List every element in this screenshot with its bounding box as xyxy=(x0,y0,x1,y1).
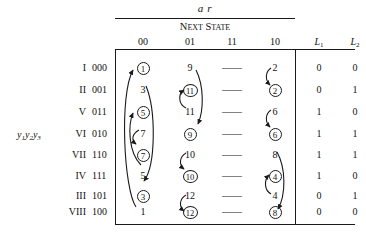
cell-next-state-01: 10 xyxy=(175,170,205,183)
output-vertical-rule xyxy=(295,50,296,224)
column-header-01: 01 xyxy=(173,36,207,47)
cell-next-state-00: 7 xyxy=(128,128,158,139)
cell-next-state-01: 12 xyxy=(175,206,205,219)
cell-next-state-11: —— xyxy=(217,84,247,95)
cell-next-state-00: 5 xyxy=(128,106,158,119)
row-label-bits: 010 xyxy=(92,128,107,139)
input-variables-label: a r xyxy=(115,2,295,14)
cell-next-state-11: —— xyxy=(217,106,247,117)
state-variable-label: y1y2y3 xyxy=(17,129,41,142)
cell-output-l2: 1 xyxy=(340,84,366,95)
row-label-roman: I xyxy=(56,62,86,73)
cell-output-l1: 0 xyxy=(304,206,334,217)
cell-output-l1: 0 xyxy=(304,84,334,95)
row-label-bits: 101 xyxy=(92,190,107,201)
cell-next-state-11: —— xyxy=(217,206,247,217)
cell-next-state-01: 9 xyxy=(175,62,205,73)
cell-next-state-00: 1 xyxy=(128,62,158,75)
column-header-00: 00 xyxy=(126,36,160,47)
column-header-l1: L1 xyxy=(302,36,336,49)
cell-output-l1: 1 xyxy=(304,170,334,181)
cell-next-state-10: 4 xyxy=(260,170,290,183)
cell-next-state-11: —— xyxy=(217,62,247,73)
cell-output-l1: 0 xyxy=(304,62,334,73)
cell-next-state-00: 7 xyxy=(128,149,158,162)
cell-output-l2: 0 xyxy=(340,170,366,181)
header-rule xyxy=(115,49,355,50)
row-label-roman: II xyxy=(56,84,86,95)
cell-next-state-10: 2 xyxy=(260,84,290,97)
cell-next-state-10: 6 xyxy=(260,128,290,141)
row-label-bits: 011 xyxy=(92,106,107,117)
cell-next-state-00: 3 xyxy=(128,190,158,203)
row-label-bits: 000 xyxy=(92,62,107,73)
cell-output-l1: 0 xyxy=(304,190,334,201)
row-label-roman: III xyxy=(56,190,86,201)
cell-output-l2: 1 xyxy=(340,128,366,139)
row-label-roman: VI xyxy=(56,128,86,139)
row-label-roman: IV xyxy=(56,170,86,181)
cell-output-l1: 1 xyxy=(304,149,334,160)
cell-output-l2: 1 xyxy=(340,149,366,160)
cell-next-state-10: 4 xyxy=(260,190,290,201)
left-vertical-rule xyxy=(115,50,116,224)
row-label-bits: 111 xyxy=(92,170,106,181)
cell-next-state-01: 11 xyxy=(175,106,205,117)
cell-next-state-10: 8 xyxy=(260,206,290,219)
cell-next-state-11: —— xyxy=(217,170,247,181)
cell-next-state-00: 5 xyxy=(128,170,158,181)
cell-output-l2: 0 xyxy=(340,206,366,217)
row-label-bits: 110 xyxy=(92,149,107,160)
cell-next-state-11: —— xyxy=(217,149,247,160)
next-state-label: NEXT STATE xyxy=(115,21,295,32)
cell-next-state-10: 6 xyxy=(260,106,290,117)
cell-output-l1: 1 xyxy=(304,128,334,139)
column-header-l2: L2 xyxy=(338,36,366,49)
input-header-rule xyxy=(115,18,295,19)
cell-next-state-10: 2 xyxy=(260,62,290,73)
cell-next-state-01: 12 xyxy=(175,190,205,201)
cell-output-l1: 1 xyxy=(304,106,334,117)
cell-next-state-00: 1 xyxy=(128,206,158,217)
cell-output-l2: 0 xyxy=(340,106,366,117)
column-header-10: 10 xyxy=(258,36,292,47)
cell-output-l2: 1 xyxy=(340,190,366,201)
row-label-bits: 001 xyxy=(92,84,107,95)
row-label-roman: VIII xyxy=(56,206,86,217)
cell-next-state-10: 8 xyxy=(260,149,290,160)
cell-next-state-01: 11 xyxy=(175,84,205,97)
cell-next-state-11: —— xyxy=(217,190,247,201)
bottom-rule xyxy=(115,224,355,225)
cell-next-state-01: 10 xyxy=(175,149,205,160)
row-label-bits: 100 xyxy=(92,206,107,217)
cell-next-state-11: —— xyxy=(217,128,247,139)
row-label-roman: VII xyxy=(56,149,86,160)
flow-table: a r NEXT STATE 00 01 11 10 L1 L2 y1y2y3 … xyxy=(0,0,366,232)
cell-output-l2: 0 xyxy=(340,62,366,73)
row-label-roman: V xyxy=(56,106,86,117)
cell-next-state-00: 3 xyxy=(128,84,158,95)
cell-next-state-01: 9 xyxy=(175,128,205,141)
column-header-11: 11 xyxy=(215,36,249,47)
